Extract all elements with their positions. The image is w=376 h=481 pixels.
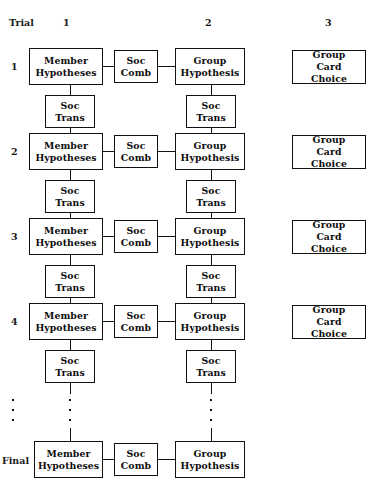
node-text-line1: Soc — [119, 310, 153, 322]
connector-soccomb-to-group-4 — [158, 321, 175, 322]
trial-header-label: Trial — [9, 18, 34, 28]
connector-group1-to-soctrans — [211, 85, 212, 95]
connector-member-to-soccomb-3 — [103, 236, 114, 237]
column-header-2: 2 — [205, 18, 212, 28]
node-text-line1: Soc — [194, 100, 228, 112]
connector-member-to-soccomb-2 — [103, 151, 114, 152]
node-soc-trans-group-4: Soc Trans — [186, 350, 236, 383]
connector-member4-to-soctrans — [70, 340, 71, 350]
node-text-line1: Soc — [119, 140, 153, 152]
node-text-line1: Member — [36, 448, 101, 460]
node-soc-trans-group-2: Soc Trans — [186, 180, 236, 213]
node-group-hypothesis-trial-3: Group Hypothesis — [175, 218, 245, 255]
node-member-hypotheses-trial-4: Member Hypotheses — [29, 303, 103, 340]
node-text-line1: Member — [33, 140, 98, 152]
node-text-line2: Hypothesis — [179, 322, 242, 334]
node-text-line1: Soc — [53, 270, 87, 282]
row-label-3: 3 — [11, 232, 18, 242]
ellipsis-dot — [12, 399, 14, 401]
node-member-hypotheses-trial-2: Member Hypotheses — [29, 133, 103, 170]
node-text-line2: Trans — [194, 112, 228, 124]
node-group-card-choice-trial-1: Group Card Choice — [292, 50, 366, 84]
ellipsis-dot — [69, 409, 71, 411]
node-soc-trans-member-2: Soc Trans — [45, 180, 95, 213]
column-header-3: 3 — [325, 18, 332, 28]
ellipsis-member-column — [69, 399, 71, 421]
row-label-2: 2 — [11, 147, 18, 157]
ellipsis-dot — [210, 419, 212, 421]
connector-soccomb-to-group-1 — [158, 66, 175, 67]
node-text-line1: Soc — [119, 55, 153, 67]
connector-group2-to-soctrans — [211, 170, 212, 180]
node-text-line1: Member — [33, 310, 98, 322]
node-group-hypothesis-trial-1: Group Hypothesis — [175, 48, 245, 85]
node-group-hypothesis-trial-2: Group Hypothesis — [175, 133, 245, 170]
node-text-line1: Group — [179, 55, 242, 67]
node-soc-comb-trial-2: Soc Comb — [114, 135, 158, 168]
node-soc-trans-member-4: Soc Trans — [45, 350, 95, 383]
node-text-line2: Comb — [119, 152, 153, 164]
node-soc-comb-trial-4: Soc Comb — [114, 305, 158, 338]
node-text-line1: Member — [33, 225, 98, 237]
node-text-line2: Hypotheses — [33, 237, 98, 249]
connector-member-to-soccomb-4 — [103, 321, 114, 322]
node-text-line2: Card Choice — [295, 61, 363, 85]
connector-soccomb-to-group-2 — [158, 151, 175, 152]
node-text-line1: Group — [295, 134, 363, 146]
ellipsis-dot — [210, 399, 212, 401]
node-text-line2: Trans — [53, 282, 87, 294]
ellipsis-group-column — [210, 399, 212, 421]
node-soc-trans-member-3: Soc Trans — [45, 265, 95, 298]
node-text-line1: Soc — [53, 355, 87, 367]
node-text-line2: Card Choice — [295, 316, 363, 340]
ellipsis-left-margin — [12, 399, 14, 421]
node-text-line2: Comb — [119, 460, 153, 472]
connector-soctrans-to-ellipsis-member — [70, 383, 71, 394]
connector-member1-to-soctrans — [70, 85, 71, 95]
connector-ellipsis-to-member-final — [70, 428, 71, 441]
node-text-line1: Group — [179, 310, 242, 322]
node-group-hypothesis-trial-4: Group Hypothesis — [175, 303, 245, 340]
column-header-1: 1 — [63, 18, 70, 28]
node-text-line1: Group — [179, 225, 242, 237]
node-text-line2: Hypotheses — [36, 460, 101, 472]
connector-ellipsis-to-group-final — [211, 428, 212, 441]
connector-member2-to-soctrans — [70, 170, 71, 180]
row-label-4: 4 — [11, 317, 18, 327]
node-text-line2: Trans — [53, 367, 87, 379]
ellipsis-dot — [210, 409, 212, 411]
node-text-line1: Soc — [194, 270, 228, 282]
ellipsis-dot — [69, 419, 71, 421]
node-text-line2: Hypotheses — [33, 322, 98, 334]
connector-member3-to-soctrans — [70, 255, 71, 265]
ellipsis-dot — [69, 399, 71, 401]
connector-member-to-soccomb-1 — [103, 66, 114, 67]
node-text-line2: Comb — [119, 237, 153, 249]
node-soc-trans-group-3: Soc Trans — [186, 265, 236, 298]
node-text-line2: Hypotheses — [33, 67, 98, 79]
node-text-line2: Hypothesis — [179, 237, 242, 249]
node-text-line1: Group — [295, 219, 363, 231]
node-member-hypotheses-trial-3: Member Hypotheses — [29, 218, 103, 255]
node-text-line1: Group — [295, 304, 363, 316]
node-text-line2: Hypothesis — [179, 460, 242, 472]
node-soc-trans-member-1: Soc Trans — [45, 95, 95, 128]
node-text-line1: Group — [179, 140, 242, 152]
node-text-line1: Soc — [194, 185, 228, 197]
node-text-line1: Soc — [119, 225, 153, 237]
connector-soccomb-to-group-3 — [158, 236, 175, 237]
node-soc-trans-group-1: Soc Trans — [186, 95, 236, 128]
node-text-line1: Soc — [53, 185, 87, 197]
node-text-line2: Trans — [194, 197, 228, 209]
ellipsis-dot — [12, 409, 14, 411]
node-soc-comb-trial-1: Soc Comb — [114, 50, 158, 83]
node-text-line2: Hypothesis — [179, 67, 242, 79]
node-text-line2: Trans — [53, 112, 87, 124]
node-text-line1: Member — [33, 55, 98, 67]
node-group-card-choice-trial-2: Group Card Choice — [292, 135, 366, 169]
node-group-card-choice-trial-3: Group Card Choice — [292, 220, 366, 254]
row-label-1: 1 — [11, 62, 18, 72]
connector-member-to-soccomb-final — [103, 459, 114, 460]
node-text-line2: Trans — [194, 367, 228, 379]
connector-group4-to-soctrans — [211, 340, 212, 350]
